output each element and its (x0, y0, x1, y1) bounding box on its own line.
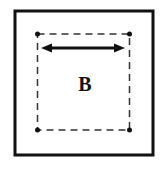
diagram: B (0, 0, 165, 170)
arrowhead-right (114, 44, 125, 53)
corner-dot-bottom-right (127, 128, 132, 133)
double-arrow (41, 44, 125, 53)
corner-dot-top-left (35, 32, 40, 37)
corner-dot-bottom-left (35, 128, 40, 133)
corner-dot-top-right (127, 32, 132, 37)
arrowhead-left (41, 44, 52, 53)
label-b: B (78, 73, 91, 95)
